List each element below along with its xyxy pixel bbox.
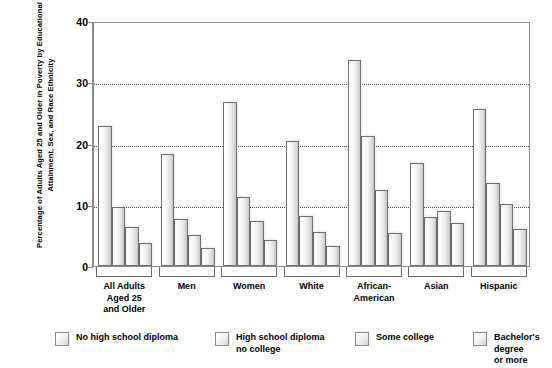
bar: [513, 229, 527, 266]
bar: [299, 216, 313, 266]
bar: [125, 227, 139, 266]
legend-label: Bachelor's degree or more: [494, 332, 540, 367]
legend: No high school diplomaHigh school diplom…: [55, 332, 535, 366]
legend-swatch: [215, 332, 229, 346]
bar: [223, 102, 237, 266]
x-axis-group-brackets: [93, 267, 530, 279]
legend-item: Bachelor's degree or more: [473, 332, 540, 367]
bar: [326, 246, 340, 266]
bar: [486, 183, 500, 266]
x-axis-label: Hispanic: [462, 281, 536, 293]
x-axis-labels: All AdultsAged 25and OlderMenWomenWhiteA…: [93, 281, 530, 323]
bar: [264, 240, 278, 266]
bars-layer: [94, 23, 529, 266]
legend-swatch: [55, 332, 69, 346]
legend-label: High school diploma no college: [236, 332, 325, 355]
bar-chart: Percentage of Adults Aged 25 and Older i…: [0, 0, 552, 368]
legend-label: Some college: [376, 332, 434, 344]
x-axis-group-bracket: [471, 267, 527, 277]
bar: [410, 163, 424, 267]
x-axis-group-bracket: [221, 267, 277, 277]
x-axis-group-bracket: [346, 267, 402, 277]
x-axis-group-bracket: [96, 267, 152, 277]
bar: [500, 204, 514, 266]
x-axis-group-bracket: [284, 267, 340, 277]
x-axis-group-bracket: [159, 267, 215, 277]
x-axis-group-bracket: [408, 267, 464, 277]
bar: [201, 248, 215, 266]
legend-item: High school diploma no college: [215, 332, 325, 355]
bar: [174, 219, 188, 266]
bar: [424, 217, 438, 266]
bar: [286, 141, 300, 266]
y-axis-tick-marks: [0, 22, 100, 267]
bar: [348, 60, 362, 266]
legend-swatch: [355, 332, 369, 346]
legend-item: Some college: [355, 332, 434, 346]
bar: [361, 136, 375, 266]
bar: [98, 126, 112, 266]
bar: [112, 207, 126, 266]
plot-area: [93, 22, 530, 267]
bar: [388, 233, 402, 266]
bar: [473, 109, 487, 266]
bar: [313, 232, 327, 266]
bar: [188, 235, 202, 266]
bar: [375, 190, 389, 266]
bar: [139, 243, 153, 266]
legend-item: No high school diploma: [55, 332, 178, 346]
bar: [437, 211, 451, 266]
bar: [451, 223, 465, 266]
bar: [161, 154, 175, 266]
legend-label: No high school diploma: [76, 332, 178, 344]
bar: [237, 197, 251, 266]
bar: [250, 221, 264, 266]
legend-swatch: [473, 332, 487, 346]
